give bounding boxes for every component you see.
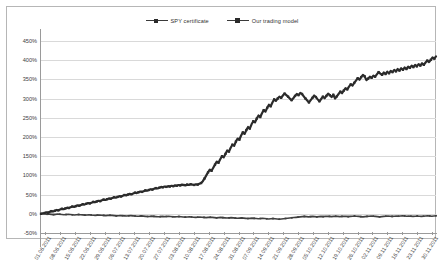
series-marker (123, 194, 125, 196)
series-marker (61, 208, 63, 210)
series-marker (402, 69, 404, 71)
series-marker (341, 216, 343, 218)
legend-label-spy-certificate: SPY certificate (171, 18, 209, 24)
series-marker (231, 144, 233, 146)
chart-plot-frame: SPY certificate Our trading model 450%40… (6, 6, 436, 239)
series-marker (423, 64, 425, 66)
series-marker (350, 83, 352, 85)
series-marker (57, 209, 59, 211)
series-marker (398, 69, 400, 71)
y-axis-tick-label: -50% (24, 230, 37, 236)
chart-container: SPY certificate Our trading model 450%40… (0, 0, 443, 268)
series-marker (329, 216, 331, 218)
series-marker (103, 215, 105, 217)
series-marker (404, 215, 406, 217)
series-marker (346, 88, 348, 90)
series-marker (388, 72, 390, 74)
series-marker (47, 212, 49, 214)
series-marker (385, 215, 387, 217)
series-marker (97, 214, 99, 216)
series-marker (270, 105, 272, 107)
series-marker (339, 91, 341, 93)
legend-marker-model-icon (227, 17, 249, 25)
series-marker (84, 214, 86, 216)
series-marker (50, 210, 52, 212)
series-marker (191, 216, 193, 218)
series-marker (395, 70, 397, 72)
x-axis-tick (343, 232, 344, 235)
series-marker (410, 215, 412, 217)
series-marker (75, 205, 77, 207)
series-marker (412, 66, 414, 68)
series-marker (64, 207, 66, 209)
series-marker (92, 201, 94, 203)
series-marker (210, 170, 212, 172)
legend-marker-spy-icon (146, 17, 168, 25)
series-marker (435, 215, 437, 217)
series-marker (433, 58, 435, 60)
series-marker (158, 187, 160, 189)
x-axis-tick (209, 232, 210, 235)
series-marker (416, 65, 418, 67)
y-axis-tick-label: 100% (23, 172, 37, 178)
series-marker (430, 59, 432, 61)
series-marker (303, 216, 305, 218)
series-marker (370, 77, 372, 79)
y-axis-tick-label: 300% (23, 96, 37, 102)
series-marker (316, 216, 318, 218)
series-marker (266, 218, 268, 220)
series-marker (184, 216, 186, 218)
series-marker (137, 191, 139, 193)
series-marker (122, 215, 124, 217)
series-marker (366, 216, 368, 218)
series-marker (222, 217, 224, 219)
series-marker (304, 97, 306, 99)
series-marker (391, 71, 393, 73)
series-marker (301, 93, 303, 95)
series-marker (310, 216, 312, 218)
series-marker (283, 92, 285, 94)
x-axis-tick (75, 232, 76, 235)
series-marker (409, 67, 411, 69)
series-marker (68, 207, 70, 209)
series-marker (429, 215, 431, 217)
series-marker (249, 127, 251, 129)
series-marker (179, 184, 181, 186)
series-marker (165, 186, 167, 188)
series-marker (266, 107, 268, 109)
series-marker (216, 217, 218, 219)
series-marker (134, 215, 136, 217)
series-marker (96, 200, 98, 202)
series-marker (148, 189, 150, 191)
series-marker (166, 216, 168, 218)
x-axis-labels: 01.06.201108.06.201115.06.201122.06.2011… (41, 235, 437, 268)
series-marker (308, 101, 310, 103)
series-marker (155, 187, 157, 189)
series-marker (290, 99, 292, 101)
series-marker (322, 96, 324, 98)
series-marker (277, 97, 279, 99)
y-axis-tick-label: 50% (26, 192, 37, 198)
series-marker (78, 214, 80, 216)
series-marker (71, 205, 73, 207)
legend-entry-spy-certificate[interactable]: SPY certificate (146, 17, 209, 25)
series-marker (377, 71, 379, 73)
series-marker (127, 193, 129, 195)
series-marker (89, 202, 91, 204)
series-marker (285, 218, 287, 220)
plot-area (41, 41, 436, 233)
legend-entry-our-trading-model[interactable]: Our trading model (227, 17, 299, 25)
series-marker (130, 193, 132, 195)
series-marker (169, 185, 171, 187)
series-marker (40, 213, 42, 215)
series-marker (423, 215, 425, 217)
series-marker (367, 77, 369, 79)
series-marker (311, 97, 313, 99)
series-marker (318, 100, 320, 102)
series-marker (242, 131, 244, 133)
series-marker (315, 96, 317, 98)
series-marker (291, 217, 293, 219)
series-marker (241, 217, 243, 219)
series-marker (214, 164, 216, 166)
series-marker (59, 213, 61, 215)
